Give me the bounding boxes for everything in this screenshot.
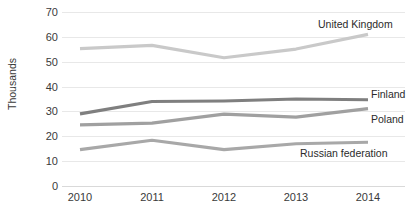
x-tick-label: 2013 xyxy=(266,192,326,203)
line-chart: Thousands 70 60 50 40 30 20 10 0 United … xyxy=(0,0,413,210)
x-tick-label: 2012 xyxy=(194,192,254,203)
series-line-poland xyxy=(80,109,368,125)
x-tick-label: 2011 xyxy=(122,192,182,203)
x-tick-label: 2010 xyxy=(50,192,110,203)
x-tick-label: 2014 xyxy=(338,192,398,203)
series-lines xyxy=(80,34,368,149)
series-label-united-kingdom: United Kingdom xyxy=(318,19,393,30)
series-label-finland: Finland xyxy=(371,89,405,100)
series-label-poland: Poland xyxy=(371,114,404,125)
plot-area xyxy=(0,0,413,210)
series-label-russian-federation: Russian federation xyxy=(300,148,388,159)
